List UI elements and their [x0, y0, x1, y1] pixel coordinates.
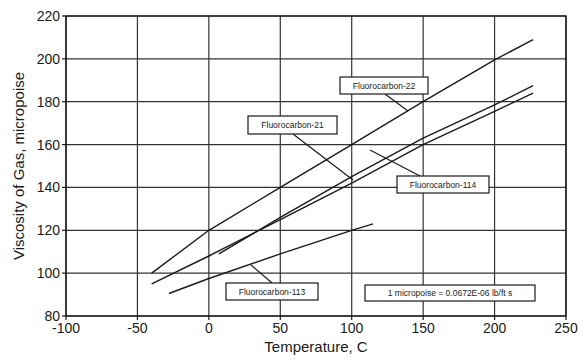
label-fluorocarbon-113: Fluorocarbon-113	[239, 287, 306, 297]
y-axis-title: Viscosity of Gas, micropoise	[10, 72, 27, 260]
y-tick-label: 100	[37, 265, 61, 281]
leader-line	[293, 134, 353, 180]
y-tick-label: 180	[37, 94, 61, 110]
y-tick-label: 120	[37, 222, 61, 238]
x-tick-label: 50	[272, 320, 288, 336]
annotations: Fluorocarbon-22Fluorocarbon-21Fluorocarb…	[226, 77, 535, 301]
x-axis-title: Temperature, C	[264, 338, 368, 355]
x-tick-label: 200	[483, 320, 507, 336]
y-tick-label: 140	[37, 179, 61, 195]
x-tick-label: 250	[554, 320, 578, 336]
y-tick-label: 80	[44, 308, 60, 324]
x-tick-label: 100	[340, 320, 364, 336]
x-tick-label: 150	[411, 320, 435, 336]
label-fluorocarbon-114: Fluorocarbon-114	[410, 180, 477, 190]
label-1-micropoise-0-0672e-06-lb-ft-s: 1 micropoise = 0.0672E-06 lb/ft s	[388, 288, 513, 298]
label-fluorocarbon-22: Fluorocarbon-22	[353, 81, 416, 91]
leader-line	[251, 265, 272, 283]
leader-line	[385, 94, 408, 111]
x-tick-label: 0	[205, 320, 213, 336]
y-tick-label: 160	[37, 137, 61, 153]
y-axis-ticks: 80100120140160180200220	[37, 8, 66, 324]
x-tick-label: -50	[127, 320, 147, 336]
x-axis-ticks: -100-50050100150200250	[52, 316, 578, 336]
y-tick-label: 200	[37, 51, 61, 67]
viscosity-chart: -100-50050100150200250 80100120140160180…	[0, 0, 585, 362]
y-tick-label: 220	[37, 8, 61, 24]
label-fluorocarbon-21: Fluorocarbon-21	[261, 120, 324, 130]
